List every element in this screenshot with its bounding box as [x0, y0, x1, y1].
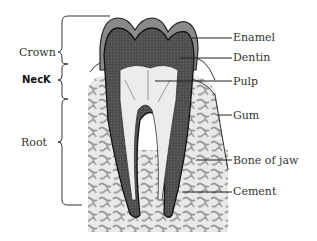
label-root: Root [21, 137, 47, 148]
label-pulp: Pulp [233, 76, 258, 87]
root-bracket [58, 99, 82, 205]
label-dentin: Dentin [233, 52, 270, 63]
label-cement: Cement [233, 186, 276, 197]
tooth-diagram: Crown NecK Root Enamel Dentin Pulp Gum B… [0, 0, 317, 241]
crown-bracket [58, 16, 68, 64]
label-enamel: Enamel [233, 32, 275, 43]
label-bone-of-jaw: Bone of jaw [233, 155, 298, 166]
label-gum: Gum [233, 110, 259, 121]
label-neck: NecK [22, 75, 51, 85]
label-crown: Crown [19, 47, 56, 58]
neck-bracket [58, 64, 68, 99]
